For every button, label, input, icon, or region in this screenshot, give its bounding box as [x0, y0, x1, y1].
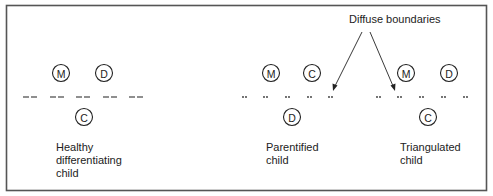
node-child: C [76, 109, 93, 126]
node-label: C [424, 112, 432, 124]
node-mother: M [263, 65, 280, 82]
caption-line: Healthy [56, 141, 94, 153]
caption-triangulated: Triangulated child [400, 141, 461, 166]
caption-line: Parentified [266, 141, 319, 153]
node-mother: M [398, 65, 415, 82]
node-label: M [402, 68, 411, 80]
node-father: D [441, 65, 458, 82]
caption-line: differentiating [56, 154, 122, 166]
caption-line: child [56, 167, 79, 179]
caption-healthy: Healthy differentiating child [56, 141, 122, 179]
node-label: D [100, 68, 108, 80]
node-child: C [304, 65, 321, 82]
arrow-left [335, 32, 362, 86]
node-label: D [445, 68, 453, 80]
node-mother: M [53, 65, 70, 82]
node-label: C [80, 112, 88, 124]
node-label: D [288, 112, 296, 124]
caption-line: child [266, 154, 289, 166]
node-label: M [57, 68, 66, 80]
annotation-label: Diffuse boundaries [349, 13, 441, 25]
annotation-diffuse-boundaries: Diffuse boundaries [333, 13, 442, 91]
caption-line: Triangulated [400, 141, 461, 153]
node-father: D [284, 109, 301, 126]
arrow-head-icon [391, 84, 396, 92]
panel-parentified: M C D Parentified child [242, 65, 333, 167]
diffuse-boundary-dotted [376, 96, 468, 98]
arrow-right [370, 32, 393, 86]
node-label: C [308, 68, 316, 80]
arrow-head-icon [333, 84, 338, 92]
node-label: M [267, 68, 276, 80]
node-child: C [420, 109, 437, 126]
panel-healthy: M D C Healthy differentiating child [23, 65, 143, 180]
family-boundaries-diagram: M D C Healthy differentiating child [0, 0, 493, 196]
caption-line: child [400, 154, 423, 166]
node-father: D [96, 65, 113, 82]
diffuse-boundary-dotted [242, 96, 333, 98]
caption-parentified: Parentified child [266, 141, 319, 166]
